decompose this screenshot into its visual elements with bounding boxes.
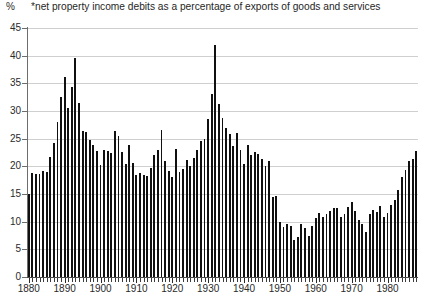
x-tick-label: 1980 bbox=[376, 283, 398, 294]
x-tick-mark bbox=[97, 278, 98, 282]
bar bbox=[110, 153, 112, 277]
x-tick-mark bbox=[362, 278, 363, 282]
x-tick-mark bbox=[344, 278, 345, 282]
bar bbox=[387, 213, 389, 277]
y-tick-label-wrap: 45 bbox=[0, 23, 21, 33]
bar bbox=[146, 176, 148, 277]
bar bbox=[415, 151, 417, 277]
bar bbox=[85, 132, 87, 277]
x-tick-mark bbox=[355, 278, 356, 282]
x-tick-mark bbox=[219, 278, 220, 282]
bar bbox=[125, 164, 127, 277]
x-tick-mark bbox=[230, 278, 231, 282]
bar bbox=[35, 174, 37, 277]
bar bbox=[304, 228, 306, 277]
bar bbox=[164, 161, 166, 277]
bar bbox=[161, 130, 163, 277]
y-tick-label: 20 bbox=[1, 161, 21, 171]
y-tick-label: 5 bbox=[1, 244, 21, 254]
x-tick-mark bbox=[294, 278, 295, 282]
bar bbox=[135, 175, 137, 277]
x-tick-mark bbox=[40, 278, 41, 282]
bar bbox=[351, 202, 353, 277]
x-tick-mark bbox=[205, 278, 206, 282]
bar bbox=[333, 208, 335, 277]
x-tick-mark bbox=[54, 278, 55, 282]
bar bbox=[118, 136, 120, 277]
x-tick-mark bbox=[337, 278, 338, 282]
x-tick-mark bbox=[223, 278, 224, 282]
y-tick-label: 45 bbox=[1, 23, 21, 33]
x-tick-mark bbox=[115, 278, 116, 282]
x-tick-mark bbox=[183, 278, 184, 282]
bar bbox=[157, 150, 159, 277]
x-tick-mark bbox=[248, 278, 249, 282]
bar bbox=[344, 214, 346, 277]
x-tick-mark bbox=[68, 278, 69, 282]
x-tick-mark bbox=[215, 278, 216, 282]
bar bbox=[369, 214, 371, 277]
bar bbox=[340, 217, 342, 277]
bar bbox=[42, 171, 44, 277]
x-tick-mark bbox=[319, 278, 320, 282]
x-tick-mark bbox=[341, 278, 342, 282]
bar bbox=[179, 172, 181, 277]
bar bbox=[214, 45, 216, 277]
bar bbox=[28, 194, 30, 277]
x-tick-mark bbox=[126, 278, 127, 282]
x-tick-label: 1950 bbox=[269, 283, 291, 294]
x-tick-label: 1960 bbox=[305, 283, 327, 294]
y-tick-label-wrap: 35 bbox=[0, 78, 21, 88]
bar bbox=[240, 150, 242, 277]
bar bbox=[318, 213, 320, 277]
bar bbox=[132, 163, 134, 277]
bar bbox=[322, 217, 324, 277]
bar bbox=[326, 214, 328, 277]
bar bbox=[265, 166, 267, 277]
x-tick-mark bbox=[287, 278, 288, 282]
bar bbox=[71, 87, 73, 277]
y-tick-label: 30 bbox=[1, 106, 21, 116]
x-tick-mark bbox=[283, 278, 284, 282]
y-tick-label: 15 bbox=[1, 189, 21, 199]
bar bbox=[57, 122, 59, 277]
bar bbox=[189, 166, 191, 277]
x-tick-mark bbox=[305, 278, 306, 282]
bar bbox=[361, 224, 363, 277]
x-tick-mark bbox=[377, 278, 378, 282]
x-tick-mark bbox=[395, 278, 396, 282]
x-tick-mark bbox=[190, 278, 191, 282]
x-tick-mark bbox=[384, 278, 385, 282]
bar bbox=[383, 217, 385, 277]
bar bbox=[204, 139, 206, 277]
x-tick-mark bbox=[391, 278, 392, 282]
x-tick-mark bbox=[276, 278, 277, 282]
x-tick-mark bbox=[144, 278, 145, 282]
chart-title: *net property income debits as a percent… bbox=[31, 1, 380, 13]
bar bbox=[358, 220, 360, 277]
x-tick-mark bbox=[409, 278, 410, 282]
bar bbox=[315, 218, 317, 277]
bar bbox=[397, 190, 399, 277]
bar bbox=[103, 150, 105, 277]
bar bbox=[168, 171, 170, 277]
x-tick-mark bbox=[309, 278, 310, 282]
bar bbox=[60, 97, 62, 277]
x-tick-mark bbox=[373, 278, 374, 282]
x-tick-mark bbox=[90, 278, 91, 282]
bar bbox=[405, 170, 407, 277]
x-tick-mark bbox=[111, 278, 112, 282]
bar bbox=[293, 240, 295, 277]
y-tick-label-wrap: 5 bbox=[0, 244, 21, 254]
x-tick-mark bbox=[140, 278, 141, 282]
bar bbox=[329, 211, 331, 277]
bar bbox=[196, 150, 198, 277]
bar bbox=[225, 128, 227, 277]
x-tick-mark bbox=[269, 278, 270, 282]
bar bbox=[92, 145, 94, 277]
y-tick-label-wrap: 25 bbox=[0, 134, 21, 144]
x-tick-mark bbox=[104, 278, 105, 282]
bar bbox=[247, 145, 249, 277]
x-tick-mark bbox=[47, 278, 48, 282]
x-tick-mark bbox=[61, 278, 62, 282]
